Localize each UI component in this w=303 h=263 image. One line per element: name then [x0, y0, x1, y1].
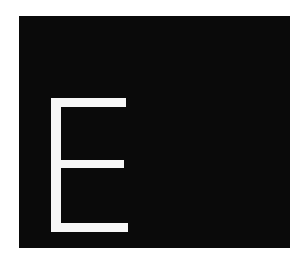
glyph-top-bar — [51, 98, 126, 107]
letter-tile: E — [19, 16, 290, 248]
letter-e-glyph — [51, 98, 129, 232]
glyph-middle-bar — [51, 160, 124, 168]
glyph-bottom-bar — [51, 223, 128, 232]
